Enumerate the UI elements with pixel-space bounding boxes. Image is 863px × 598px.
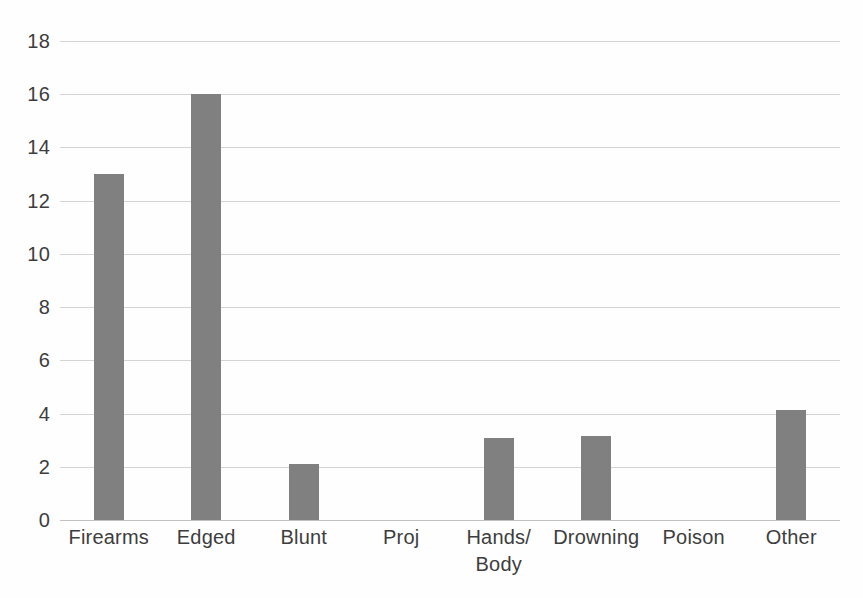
x-axis-tick-label: Drowning (548, 524, 646, 551)
bar[interactable] (484, 438, 514, 520)
bar[interactable] (94, 174, 124, 520)
y-axis-tick-label: 14 (0, 137, 50, 157)
x-axis-tick-label: Other (743, 524, 841, 551)
bar[interactable] (776, 410, 806, 520)
bar[interactable] (289, 464, 319, 520)
y-axis-tick-label: 0 (0, 510, 50, 530)
bar-slot (743, 41, 841, 520)
x-axis-tick-label: Firearms (60, 524, 158, 551)
bar-slot (548, 41, 646, 520)
y-axis-tick-labels: 024681012141618 (0, 41, 50, 520)
y-axis-tick-label: 4 (0, 404, 50, 424)
x-axis-tick-label: Blunt (255, 524, 353, 551)
y-axis-tick-label: 18 (0, 31, 50, 51)
y-axis-tick-label: 2 (0, 457, 50, 477)
y-axis-tick-label: 16 (0, 84, 50, 104)
bar-series (60, 41, 840, 520)
bar-slot (450, 41, 548, 520)
bar[interactable] (581, 436, 611, 520)
plot-area (60, 41, 840, 520)
bar-slot (255, 41, 353, 520)
bar[interactable] (191, 94, 221, 520)
y-axis-tick-label: 6 (0, 350, 50, 370)
bar-slot (60, 41, 158, 520)
x-axis-tick-label: Proj (353, 524, 451, 551)
x-axis-tick-label: Edged (158, 524, 256, 551)
bar-slot (353, 41, 451, 520)
x-axis-tick-labels: FirearmsEdgedBluntProjHands/BodyDrowning… (60, 524, 840, 594)
y-axis-tick-label: 8 (0, 297, 50, 317)
x-axis-tick-label: Poison (645, 524, 743, 551)
bar-chart: 024681012141618 FirearmsEdgedBluntProjHa… (0, 0, 863, 598)
x-axis-tick-label: Hands/Body (450, 524, 548, 578)
y-axis-tick-label: 12 (0, 191, 50, 211)
y-axis-tick-label: 10 (0, 244, 50, 264)
bar-slot (158, 41, 256, 520)
bar-slot (645, 41, 743, 520)
axis-baseline (60, 520, 840, 521)
